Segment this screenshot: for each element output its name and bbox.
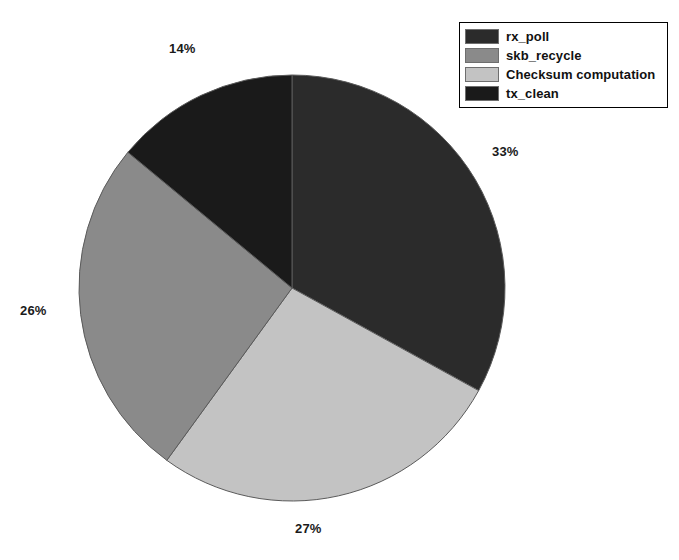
legend-label-skb-recycle: skb_recycle [506,48,582,63]
pie-chart: 33% 27% 26% 14% rx_poll skb_recycle Chec… [0,0,679,560]
legend-swatch-icon-skb-recycle [465,48,499,63]
legend-label-rx-poll: rx_poll [506,29,549,44]
slice-label-checksum-computation: 27% [295,521,322,536]
legend-item-skb-recycle: skb_recycle [465,47,661,64]
legend: rx_poll skb_recycle Checksum computation… [459,22,668,108]
legend-label-tx-clean: tx_clean [506,86,559,101]
slice-label-skb-recycle: 26% [20,303,47,318]
legend-item-tx-clean: tx_clean [465,85,661,102]
legend-item-checksum-computation: Checksum computation [465,66,661,83]
legend-label-checksum-computation: Checksum computation [506,67,655,82]
legend-swatch-icon-tx-clean [465,86,499,101]
legend-swatch-icon-checksum-computation [465,67,499,82]
legend-swatch-icon-rx-poll [465,29,499,44]
pie-slice-group [79,75,505,501]
slice-label-rx-poll: 33% [492,144,519,159]
legend-item-rx-poll: rx_poll [465,28,661,45]
slice-label-tx-clean: 14% [169,41,196,56]
